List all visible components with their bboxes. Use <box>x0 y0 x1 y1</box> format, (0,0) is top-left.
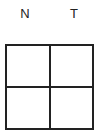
grid-cell-r1-c1 <box>6 45 50 87</box>
grid-cell-r2-c2 <box>50 87 94 129</box>
two-by-two-grid <box>5 44 94 130</box>
column-label-n: N <box>15 6 35 21</box>
grid-cell-r1-c2 <box>50 45 94 87</box>
grid-cell-r2-c1 <box>6 87 50 129</box>
column-label-t: T <box>64 6 84 21</box>
